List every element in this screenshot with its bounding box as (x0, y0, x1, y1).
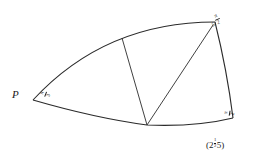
angle-fraction-at-p: π 3 (38, 89, 51, 98)
interior-segment-right (147, 25, 213, 125)
figure-caption: (2 1 2 5) (206, 138, 224, 150)
lower-arc (33, 100, 233, 125)
angle-group-top-right: 5/ π 2 (207, 11, 222, 30)
angle-top-right-denominator: 2 (215, 18, 222, 26)
interior-segment-left (122, 38, 147, 125)
angle-fraction-at-bottom-right: π 2 (222, 110, 235, 117)
vertex-label-p: P (12, 89, 19, 100)
angle-at-p-denominator: 3 (44, 92, 52, 99)
upper-arc (33, 22, 215, 100)
caption-first-number: 2 (209, 140, 214, 150)
figure-canvas: P π 3 5/ π 2 π 2 ( (0, 0, 263, 158)
angle-label-at-bottom-right: π 2 (222, 104, 236, 122)
angle-bottom-right-denominator: 2 (228, 111, 235, 117)
angle-label-at-p: π 3 (38, 86, 52, 102)
angle-label-at-top-right: 5/ π 2 (204, 11, 226, 29)
caption-close-paren: ) (221, 140, 224, 150)
